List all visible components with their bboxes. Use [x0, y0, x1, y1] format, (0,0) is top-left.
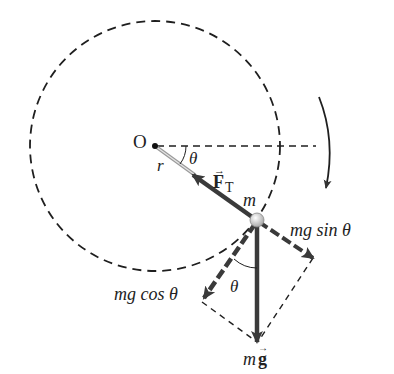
radius-label: r	[157, 156, 164, 175]
weight-vector-mark: →	[258, 342, 268, 353]
mass-ball	[250, 213, 264, 227]
angle-arc-top	[180, 146, 186, 164]
origin-point	[152, 143, 158, 149]
rotation-arrow-icon	[319, 97, 330, 188]
angle-bottom-label: θ	[230, 277, 238, 296]
angle-top-label: θ	[189, 149, 197, 168]
construction-line	[258, 258, 313, 342]
origin-label: O	[133, 131, 147, 152]
weight-label-m: m	[243, 349, 256, 369]
angle-arc-bottom	[234, 259, 257, 268]
physics-diagram: O r θ F → T m mg sin θ mg cos θ θ m g →	[0, 0, 394, 374]
sin-component-label: mg sin θ	[290, 220, 351, 240]
tension-subscript: T	[225, 180, 234, 195]
construction-line	[202, 302, 257, 342]
mass-label: m	[243, 190, 256, 210]
tension-vector-mark: →	[214, 164, 225, 176]
cos-component-label: mg cos θ	[114, 284, 178, 304]
